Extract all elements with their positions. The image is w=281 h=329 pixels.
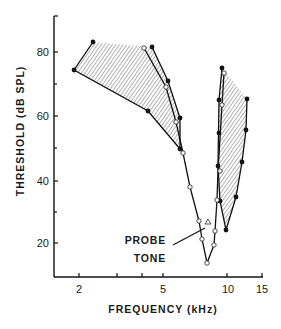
probe-tone-leader-line (173, 228, 205, 245)
y-tick-label: 80 (37, 46, 49, 58)
y-tick-labels: 80 60 40 20 (37, 46, 49, 249)
x-tick-label: 5 (160, 283, 166, 295)
y-tick-label: 20 (37, 237, 49, 249)
probe-label: PROBE (125, 234, 166, 246)
x-tick-label: 15 (256, 283, 268, 295)
low-freq-hatched-area (74, 42, 180, 149)
x-axis-title: FREQUENCY (kHz) (108, 303, 217, 315)
x-tick-label: 10 (222, 283, 234, 295)
tone-label: TONE (134, 252, 166, 264)
x-axis (54, 273, 263, 277)
chart-canvas: 80 60 40 20 2 5 10 15 FREQUENCY (kHz) TH… (0, 0, 281, 329)
y-axis (54, 16, 58, 277)
y-tick-label: 60 (37, 110, 49, 122)
x-tick-labels: 2 5 10 15 (76, 283, 268, 295)
y-tick-label: 40 (37, 175, 49, 187)
probe-tone-triangle-icon (205, 219, 211, 224)
y-axis-title: THRESHOLD (dB SPL) (14, 66, 26, 197)
x-tick-label: 2 (76, 283, 82, 295)
